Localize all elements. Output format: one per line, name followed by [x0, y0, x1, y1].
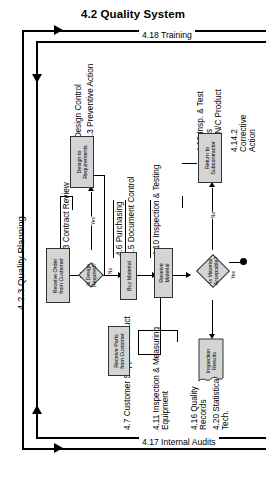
node-receive-order[interactable]: Receive Order from Customer — [46, 248, 70, 303]
node-material-acceptable[interactable]: Is Material Acceptable? — [196, 242, 229, 300]
flowchart-canvas: 4.2 Quality System 4.18 Training 4.17 In… — [0, 0, 266, 489]
edge-label-material-yes: Yes — [230, 270, 236, 279]
label-corrective-action: 4.14.2 Corrective Action — [230, 115, 257, 152]
node-receive-parts-text: Receive Parts from Customer — [113, 333, 126, 369]
edge-design-right — [93, 175, 105, 176]
frame-left-up-arrowhead — [32, 405, 42, 414]
label-purchasing: 4.6 Purchasing — [115, 201, 124, 256]
edge-parts-right — [138, 354, 161, 355]
node-design-required[interactable]: Is Design Required? — [79, 256, 102, 294]
node-receive-parts[interactable]: Receive Parts from Customer — [108, 326, 130, 376]
label-document-control: 4.5 Document Control — [127, 176, 136, 256]
frame-bottom-arrowhead — [54, 443, 63, 453]
node-design-required-text: Is Design Required? — [84, 263, 96, 287]
frame-left-inner — [36, 41, 38, 437]
node-receive-material-text: Receive Material — [157, 263, 170, 282]
bracket-lower-top — [138, 330, 178, 331]
bracket-document-control — [125, 200, 126, 258]
node-return-to-subcontractor-text: Return to Subcontractor — [204, 141, 217, 175]
frame-left-down-arrowhead — [32, 74, 42, 83]
frame-bottom-label: 4.17 Internal Audits — [139, 437, 219, 447]
frame-left-label: 4.2.3 Quality Planning — [16, 216, 25, 310]
node-receive-material[interactable]: Receive Material — [154, 248, 173, 298]
bracket-purchasing — [113, 200, 114, 258]
node-return-to-subcontractor[interactable]: Return to Subcontractor — [198, 133, 222, 183]
node-design-to-requirements-text: Design to Requirements — [76, 145, 89, 179]
frame-top-rule-inner — [36, 41, 266, 43]
edge-material-no-up — [212, 188, 213, 250]
node-buy-material-text: Buy Material — [125, 261, 131, 291]
frame-top-arrowhead — [54, 25, 63, 35]
bracket-lower-right — [177, 330, 178, 342]
edge-subcontractor-left — [182, 163, 197, 164]
edge-label-design-no: No — [107, 267, 113, 274]
frame-top-label: 4.18 Training — [139, 30, 195, 40]
edge-label-material-no: No — [210, 211, 216, 218]
node-material-acceptable-text: Is Material Acceptable? — [206, 257, 218, 286]
edge-material-yes — [229, 262, 240, 263]
label-inspection-testing: 4.10 Inspection & Testing — [152, 165, 161, 256]
node-design-to-requirements[interactable]: Design to Requirements — [70, 136, 94, 188]
node-receive-order-text: Receive Order from Customer — [52, 258, 65, 294]
label-contract-review: 4.3 Contract Review — [62, 182, 71, 256]
edge-label-design-yes: Yes — [90, 216, 96, 225]
node-buy-material[interactable]: Buy Material — [120, 252, 137, 300]
node-inspection-results[interactable]: Inspection Results — [198, 338, 224, 386]
terminator-dot — [240, 258, 247, 265]
edge-receive-to-decision-arrow — [186, 272, 191, 278]
bracket-lower-left — [138, 330, 139, 355]
edge-decision-to-results — [212, 300, 213, 336]
bracket-design-control-v — [72, 196, 73, 210]
bracket-right-group — [182, 196, 183, 208]
node-inspection-results-text: Inspection Results — [205, 349, 218, 374]
page-title: 4.2 Quality System — [0, 8, 266, 20]
edge-design-down — [104, 175, 105, 275]
bracket-inspection-testing — [150, 200, 151, 258]
